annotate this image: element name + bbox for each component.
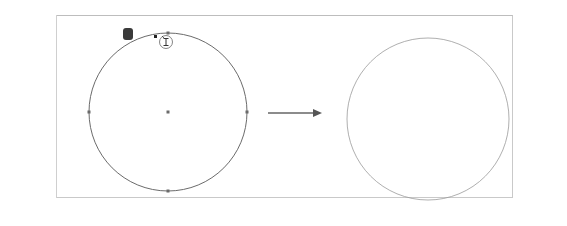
anchor-point-right[interactable] <box>246 111 249 114</box>
type-cursor-icon <box>160 36 173 49</box>
anchor-point-bottom[interactable] <box>167 190 170 193</box>
click-point-marker <box>154 35 157 38</box>
right-arrow-icon <box>268 109 322 117</box>
anchor-point-top[interactable] <box>167 32 170 35</box>
click-label <box>123 28 133 40</box>
canvas-artwork <box>0 0 567 226</box>
text-area-path[interactable] <box>347 38 509 200</box>
center-point <box>167 111 170 114</box>
anchor-point-left[interactable] <box>88 111 91 114</box>
